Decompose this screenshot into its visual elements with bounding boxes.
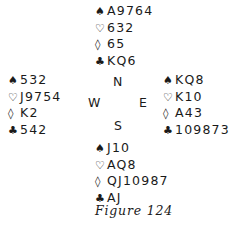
south-hearts: ♡AQ8 [95, 157, 169, 174]
spade-icon: ♠ [163, 73, 175, 89]
diamond-icon: ◊ [163, 106, 175, 122]
east-hearts: ♡K10 [163, 89, 230, 106]
west-hearts: ♡J9754 [8, 89, 62, 106]
club-icon: ♣ [163, 123, 175, 139]
east-spades: ♠KQ8 [163, 72, 230, 89]
club-icon: ♣ [95, 54, 107, 70]
spade-icon: ♠ [8, 73, 20, 89]
diamond-icon: ◊ [8, 106, 20, 122]
heart-icon: ♡ [95, 158, 107, 174]
compass-south: S [114, 118, 122, 133]
east-clubs: ♣109873 [163, 122, 230, 139]
spade-icon: ♠ [95, 4, 107, 20]
west-diamonds: ◊K2 [8, 105, 62, 122]
east-diamonds: ◊A43 [163, 105, 230, 122]
south-diamonds: ◊QJ10987 [95, 173, 169, 190]
club-icon: ♣ [8, 123, 20, 139]
north-hand: ♠A9764 ♡632 ◊65 ♣KQ6 [95, 3, 153, 69]
west-spades: ♠532 [8, 72, 62, 89]
north-hearts: ♡632 [95, 20, 153, 37]
north-spades: ♠A9764 [95, 3, 153, 20]
compass-west: W [88, 95, 100, 110]
diamond-icon: ◊ [95, 37, 107, 53]
diamond-icon: ◊ [95, 174, 107, 190]
heart-icon: ♡ [95, 21, 107, 37]
heart-icon: ♡ [8, 90, 20, 106]
north-clubs: ♣KQ6 [95, 53, 153, 70]
east-hand: ♠KQ8 ♡K10 ◊A43 ♣109873 [163, 72, 230, 138]
spade-icon: ♠ [95, 141, 107, 157]
south-spades: ♠J10 [95, 140, 169, 157]
south-hand: ♠J10 ♡AQ8 ◊QJ10987 ♣AJ [95, 140, 169, 206]
compass-east: E [139, 95, 147, 110]
compass-north: N [113, 74, 122, 89]
figure-caption: Figure 124 [95, 203, 173, 218]
west-clubs: ♣542 [8, 122, 62, 139]
north-diamonds: ◊65 [95, 36, 153, 53]
west-hand: ♠532 ♡J9754 ◊K2 ♣542 [8, 72, 62, 138]
heart-icon: ♡ [163, 90, 175, 106]
